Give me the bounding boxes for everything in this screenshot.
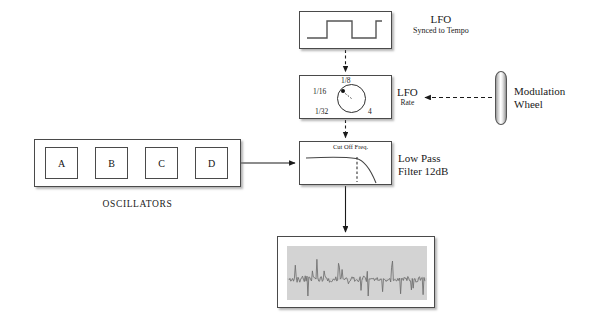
knob-label-lower-left: 1/32 bbox=[315, 108, 328, 116]
oscillator-box-b[interactable]: B bbox=[95, 147, 128, 179]
oscillators-caption: OSCILLATORS bbox=[34, 199, 241, 209]
diagram-canvas: LFO Synced to Tempo 1/8 1/16 1/32 4 LFO … bbox=[0, 0, 590, 319]
lfo-source-label: LFO bbox=[413, 13, 469, 26]
lfo-source-caption: LFO Synced to Tempo bbox=[413, 13, 469, 35]
knob-label-lower-right: 4 bbox=[368, 108, 372, 116]
lfo-rate-caption: LFO Rate bbox=[397, 86, 418, 108]
lfo-source-sublabel: Synced to Tempo bbox=[413, 26, 469, 35]
lfo-rate-panel[interactable]: 1/8 1/16 1/32 4 bbox=[299, 75, 392, 119]
knob-label-upper-left: 1/16 bbox=[313, 88, 326, 96]
lfo-rate-knob[interactable] bbox=[337, 84, 366, 113]
knob-label-top: 1/8 bbox=[341, 77, 351, 85]
square-wave-icon bbox=[300, 12, 391, 48]
mod-wheel-label-line2: Wheel bbox=[514, 98, 565, 111]
mod-wheel-label-line1: Modulation bbox=[514, 85, 565, 98]
oscillator-box-d[interactable]: D bbox=[195, 147, 228, 179]
filter-label-line2: Filter 12dB bbox=[398, 165, 448, 178]
oscillator-box-a[interactable]: A bbox=[45, 147, 78, 179]
filter-caption: Low Pass Filter 12dB bbox=[398, 152, 448, 178]
modulation-wheel-caption: Modulation Wheel bbox=[514, 85, 565, 111]
lfo-rate-sublabel: Rate bbox=[397, 99, 418, 108]
filter-response-curve bbox=[300, 142, 391, 184]
output-scope-panel[interactable] bbox=[277, 236, 435, 308]
output-waveform bbox=[287, 246, 427, 300]
oscillators-panel[interactable]: A B C D bbox=[34, 139, 241, 187]
knob-pointer-line bbox=[338, 85, 365, 112]
low-pass-filter-panel[interactable]: Cut Off Freq. bbox=[299, 141, 392, 185]
oscillator-box-c[interactable]: C bbox=[145, 147, 178, 179]
lfo-waveform-panel[interactable] bbox=[299, 11, 392, 49]
output-scope-screen bbox=[287, 246, 427, 300]
filter-label-line1: Low Pass bbox=[398, 152, 448, 165]
modulation-wheel[interactable] bbox=[495, 71, 507, 125]
